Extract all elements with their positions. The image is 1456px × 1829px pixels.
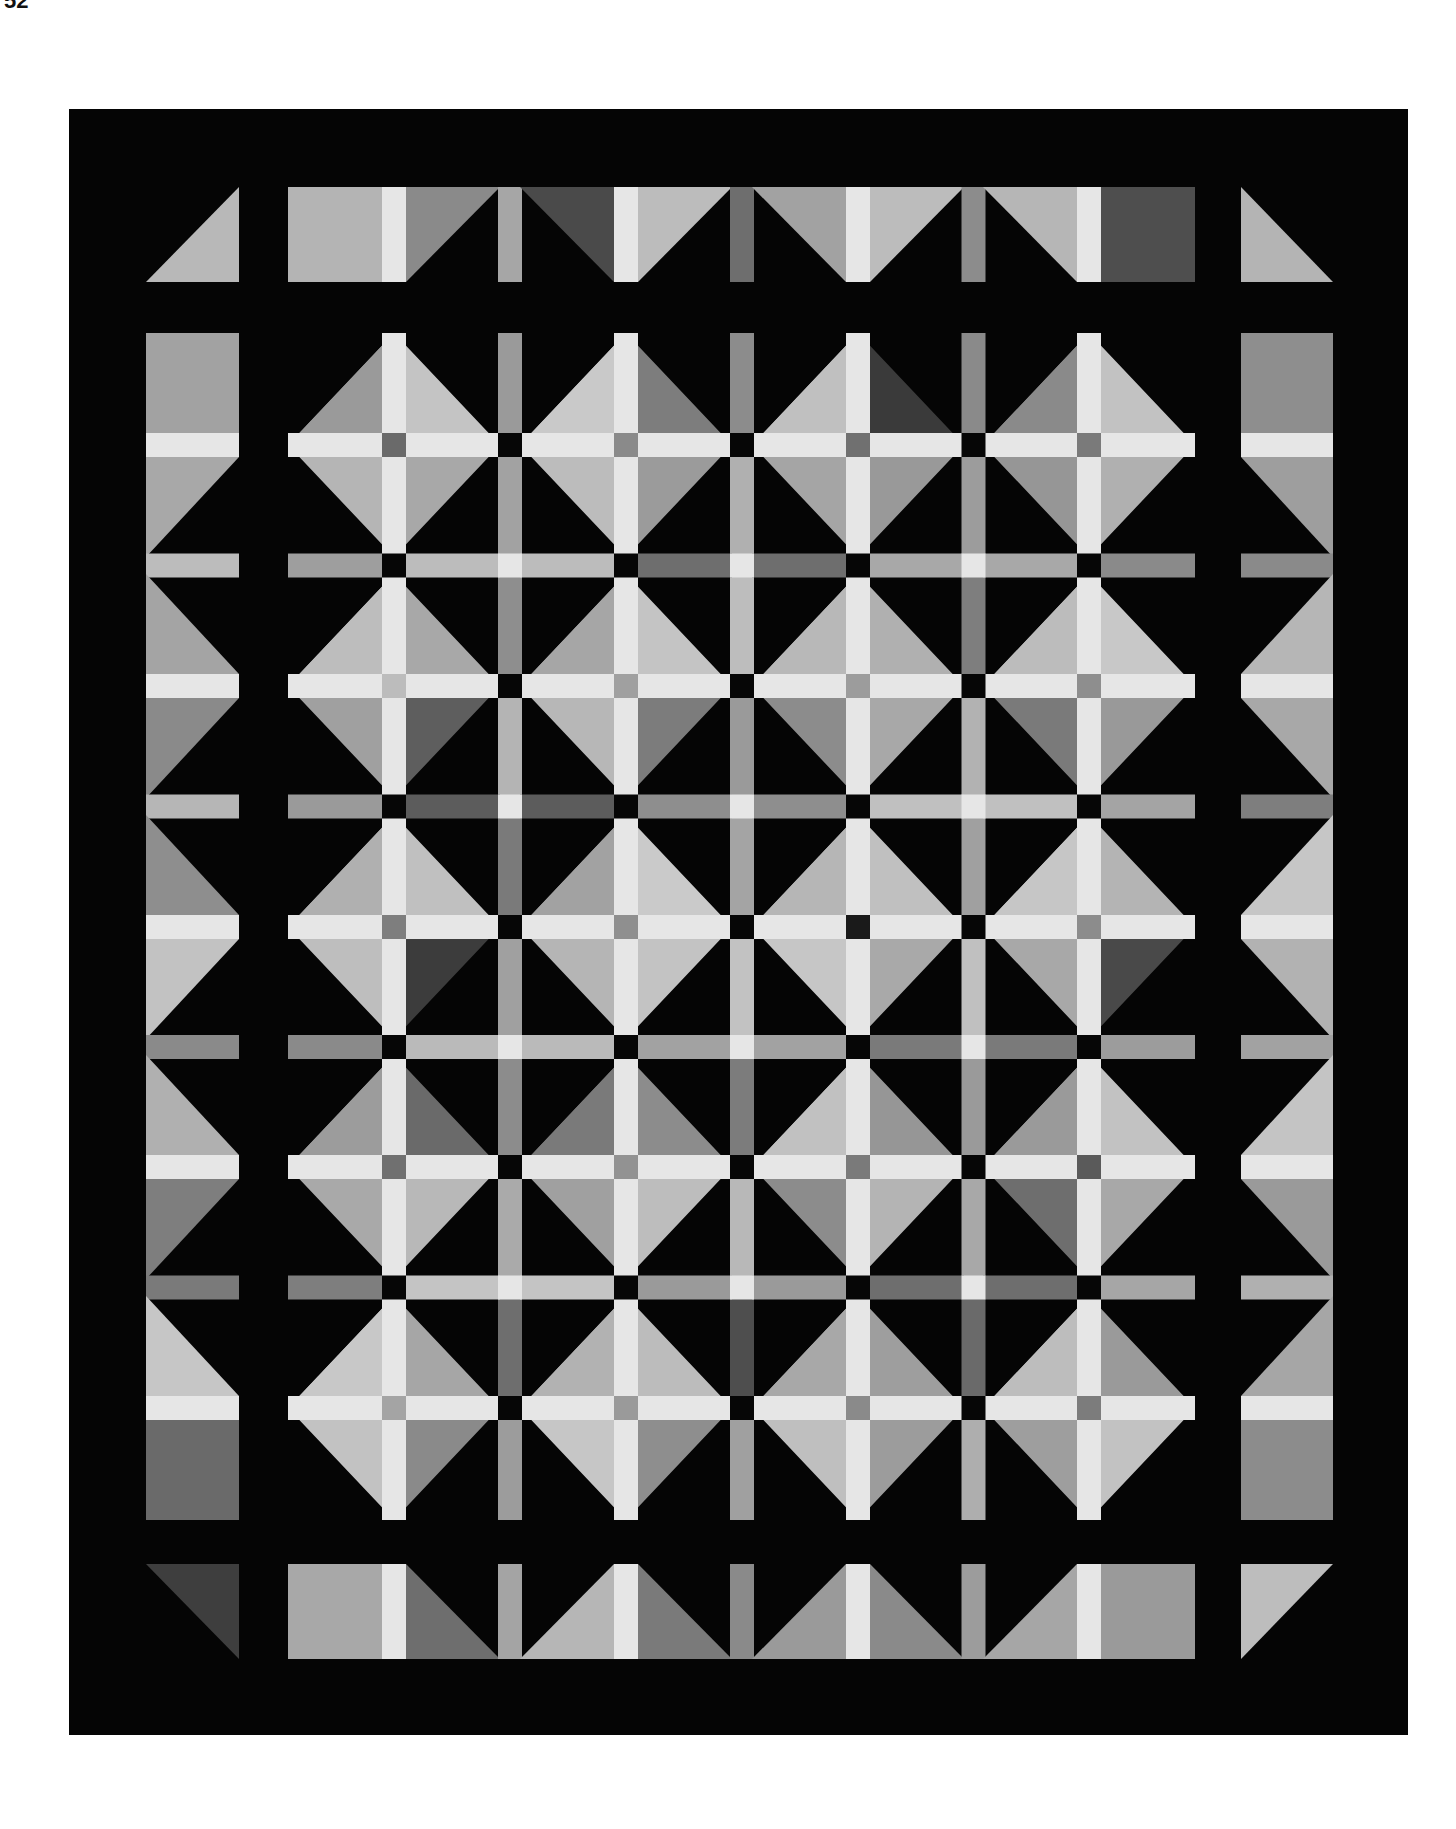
block-center-square — [1077, 915, 1101, 939]
horizontal-sashing-strip — [638, 1035, 732, 1059]
sashing-intersection — [962, 1396, 986, 1420]
vertical-sashing-strip — [498, 574, 522, 674]
row-half-block-right — [1101, 1564, 1195, 1659]
block-center-square — [1077, 433, 1101, 457]
horizontal-sashing-strip — [983, 554, 1077, 578]
vertical-sashing-strip — [498, 698, 522, 798]
sashing-intersection — [614, 795, 638, 819]
block-center-square — [846, 433, 870, 457]
sashing-intersection — [846, 1035, 870, 1059]
row-sashing-strip — [730, 1564, 754, 1659]
vertical-sashing-strip — [498, 1296, 522, 1396]
row-sashing — [614, 187, 638, 282]
row-sashing-strip — [962, 1564, 986, 1659]
sashing-intersection — [1077, 1276, 1101, 1300]
side-sashing — [146, 1396, 239, 1420]
horizontal-sashing-strip — [870, 1276, 964, 1300]
vertical-sashing-strip — [962, 457, 986, 557]
vertical-sashing-strip — [730, 698, 754, 798]
horizontal-sashing-strip — [520, 795, 614, 819]
row-half-block-right — [1101, 187, 1195, 282]
sashing-intersection — [846, 1276, 870, 1300]
sashing-crossing — [730, 554, 754, 578]
row-half-block-left — [288, 1564, 382, 1659]
horizontal-sashing-strip — [638, 1276, 732, 1300]
block-center-square — [846, 1396, 870, 1420]
block-center-square — [846, 1155, 870, 1179]
block-center-square — [382, 674, 406, 698]
vertical-sashing-strip — [730, 939, 754, 1039]
side-sashing — [1241, 1396, 1333, 1420]
vertical-sashing-strip — [730, 815, 754, 915]
sashing-intersection — [382, 554, 406, 578]
horizontal-sashing-strip — [752, 795, 846, 819]
vertical-sashing-strip — [730, 1420, 754, 1520]
row-sashing — [846, 187, 870, 282]
vertical-sashing-strip — [730, 1296, 754, 1396]
vertical-sashing-strip — [962, 939, 986, 1039]
horizontal-sashing-strip — [288, 1276, 382, 1300]
vertical-sashing-strip — [730, 574, 754, 674]
horizontal-sashing-strip — [406, 1035, 500, 1059]
sashing-intersection — [846, 554, 870, 578]
sashing-crossing — [962, 554, 986, 578]
horizontal-sashing-strip — [520, 554, 614, 578]
sashing-crossing — [730, 1035, 754, 1059]
horizontal-sashing-strip — [406, 1276, 500, 1300]
side-sashing — [146, 433, 239, 457]
side-sashing-strip — [146, 1035, 239, 1059]
sashing-crossing — [962, 795, 986, 819]
vertical-sashing-strip — [962, 815, 986, 915]
vertical-sashing-strip — [498, 457, 522, 557]
block-center-square — [1077, 1155, 1101, 1179]
sashing-intersection — [1077, 795, 1101, 819]
sashing-intersection — [846, 795, 870, 819]
sashing-intersection — [730, 433, 754, 457]
horizontal-sashing-strip — [1101, 795, 1195, 819]
vertical-sashing-strip — [730, 1055, 754, 1155]
sashing-intersection — [614, 1035, 638, 1059]
side-sashing — [146, 674, 239, 698]
block-center-square — [1077, 1396, 1101, 1420]
side-sashing-strip — [146, 1276, 239, 1300]
vertical-sashing-strip — [730, 457, 754, 557]
block-center-square — [846, 674, 870, 698]
side-sashing-strip — [1241, 795, 1333, 819]
vertical-sashing-strip — [498, 333, 522, 433]
side-sashing-strip — [1241, 1035, 1333, 1059]
sashing-crossing — [498, 1035, 522, 1059]
block-center-square — [846, 915, 870, 939]
row-sashing-strip — [730, 187, 754, 282]
sashing-crossing — [730, 795, 754, 819]
side-sashing-strip — [1241, 554, 1333, 578]
block-center-square — [614, 674, 638, 698]
horizontal-sashing-strip — [983, 795, 1077, 819]
sashing-crossing — [498, 795, 522, 819]
sashing-intersection — [382, 795, 406, 819]
sashing-intersection — [1077, 1035, 1101, 1059]
side-sashing — [146, 1155, 239, 1179]
sashing-intersection — [498, 674, 522, 698]
horizontal-sashing-strip — [520, 1276, 614, 1300]
vertical-sashing-strip — [962, 1179, 986, 1279]
side-half-block-top — [1241, 333, 1333, 433]
quilt-photo — [0, 0, 1456, 1829]
vertical-sashing-strip — [962, 1296, 986, 1396]
sashing-intersection — [962, 674, 986, 698]
sashing-intersection — [962, 915, 986, 939]
sashing-intersection — [498, 433, 522, 457]
horizontal-sashing-strip — [288, 795, 382, 819]
side-sashing — [146, 915, 239, 939]
horizontal-sashing-strip — [1101, 554, 1195, 578]
sashing-intersection — [498, 1396, 522, 1420]
block-center-square — [1077, 674, 1101, 698]
vertical-sashing-strip — [498, 1055, 522, 1155]
block-center-square — [614, 1155, 638, 1179]
vertical-sashing-strip — [498, 1179, 522, 1279]
row-sashing — [1077, 1564, 1101, 1659]
side-sashing — [1241, 674, 1333, 698]
horizontal-sashing-strip — [983, 1276, 1077, 1300]
row-sashing — [382, 187, 406, 282]
horizontal-sashing-strip — [406, 795, 500, 819]
sashing-intersection — [730, 1396, 754, 1420]
